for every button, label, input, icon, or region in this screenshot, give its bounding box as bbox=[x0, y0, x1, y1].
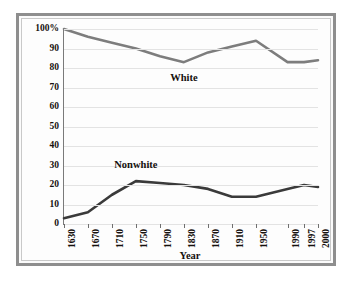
series-label-nonwhite: Nonwhite bbox=[114, 160, 157, 171]
x-axis-tick-label: 1750 bbox=[140, 229, 150, 248]
gridline bbox=[64, 88, 318, 89]
x-axis-tick-label: 1790 bbox=[164, 229, 174, 248]
x-axis-tick-label: 1990 bbox=[292, 229, 302, 248]
y-axis-tick-label: 20 bbox=[50, 180, 60, 190]
y-axis-tick-label: 100% bbox=[35, 24, 59, 34]
x-axis-tick-mark bbox=[318, 224, 319, 228]
gridline bbox=[64, 185, 318, 186]
y-axis-tick-label: 40 bbox=[50, 141, 60, 151]
y-axis-tick-label: 50 bbox=[50, 122, 60, 132]
x-axis-tick-mark bbox=[64, 224, 65, 228]
gridline bbox=[64, 166, 318, 167]
chart-inner-frame: 0102030405060708090100%16301670171017501… bbox=[21, 18, 331, 261]
x-axis-tick-mark bbox=[160, 224, 161, 228]
gridline bbox=[64, 127, 318, 128]
x-axis-tick-mark bbox=[256, 224, 257, 228]
x-axis-tick-label: 1910 bbox=[236, 229, 246, 248]
y-axis-tick-label: 30 bbox=[50, 161, 60, 171]
gridline bbox=[64, 107, 318, 108]
x-axis-tick-label: 1870 bbox=[212, 229, 222, 248]
plot-area: 0102030405060708090100%16301670171017501… bbox=[63, 29, 318, 225]
x-axis-tick-mark bbox=[88, 224, 89, 228]
x-axis-tick-label: 1830 bbox=[188, 229, 198, 248]
x-axis-tick-label: 1950 bbox=[260, 229, 270, 248]
x-axis-tick-label: 1630 bbox=[68, 229, 78, 248]
gridline bbox=[64, 29, 318, 30]
x-axis-title: Year bbox=[63, 251, 317, 262]
x-axis-tick-mark bbox=[304, 224, 305, 228]
x-axis-tick-mark bbox=[232, 224, 233, 228]
x-axis-tick-mark bbox=[288, 224, 289, 228]
y-axis-tick-label: 80 bbox=[50, 63, 60, 73]
x-axis-tick-mark bbox=[184, 224, 185, 228]
y-axis-tick-label: 60 bbox=[50, 102, 60, 112]
y-axis-tick-label: 90 bbox=[50, 44, 60, 54]
gridline bbox=[64, 224, 318, 225]
gridline bbox=[64, 49, 318, 50]
y-axis-tick-label: 70 bbox=[50, 83, 60, 93]
x-axis-tick-label: 1997 bbox=[308, 229, 318, 248]
chart-outer-frame: 0102030405060708090100%16301670171017501… bbox=[16, 13, 336, 266]
series-line-white bbox=[64, 29, 318, 62]
y-axis-tick-label: 0 bbox=[54, 219, 59, 229]
gridline bbox=[64, 68, 318, 69]
gridline bbox=[64, 205, 318, 206]
x-axis-tick-mark bbox=[136, 224, 137, 228]
gridline bbox=[64, 146, 318, 147]
figure-root: 0102030405060708090100%16301670171017501… bbox=[0, 0, 355, 281]
series-label-white: White bbox=[170, 73, 197, 84]
y-axis-tick-label: 10 bbox=[50, 200, 60, 210]
x-axis-tick-label: 1710 bbox=[116, 229, 126, 248]
x-axis-tick-mark bbox=[208, 224, 209, 228]
series-line-nonwhite bbox=[64, 181, 318, 218]
x-axis-tick-mark bbox=[112, 224, 113, 228]
x-axis-tick-label: 1670 bbox=[92, 229, 102, 248]
x-axis-tick-label: 2000 bbox=[322, 229, 332, 248]
